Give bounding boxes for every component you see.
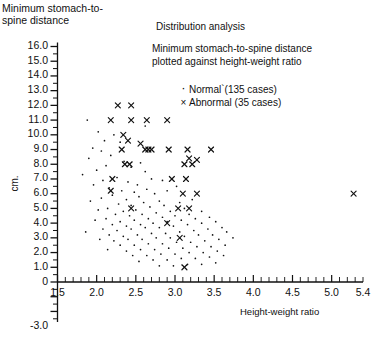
y-tick-label: 7.0 bbox=[8, 171, 48, 183]
y-tick-label: 3.0 bbox=[8, 230, 48, 242]
x-tick-label: 2.0 bbox=[80, 286, 114, 298]
y-tick-label: 4.0 bbox=[8, 216, 48, 228]
y-tick-label: 11.0 bbox=[8, 113, 48, 125]
y-tick-label: 9.0 bbox=[8, 142, 48, 154]
y-tick-label: 5.0 bbox=[8, 201, 48, 213]
x-tick-label: 3.5 bbox=[197, 286, 231, 298]
x-tick-label: 1.5 bbox=[41, 286, 75, 298]
y-tick-label: 16.0 bbox=[8, 39, 48, 51]
y-tick-label: 8.0 bbox=[8, 157, 48, 169]
x-tick-label: 2.5 bbox=[119, 286, 153, 298]
y-tick-label: 14.0 bbox=[8, 68, 48, 80]
y-tick-label: 1.0 bbox=[8, 260, 48, 272]
x-tick-label: 3.0 bbox=[158, 286, 192, 298]
y-tick-label: 12.0 bbox=[8, 98, 48, 110]
y-tick-label: 15.0 bbox=[8, 54, 48, 66]
y-tick-label: 13.0 bbox=[8, 83, 48, 95]
y-tick-label: 10.0 bbox=[8, 127, 48, 139]
y-tick-label: -3.0 bbox=[8, 319, 48, 331]
scatter-plot-figure: Minimum stomach-to-spine distance cm. Di… bbox=[0, 0, 373, 341]
y-tick-label: 6.0 bbox=[8, 186, 48, 198]
x-tick-label: 5.4 bbox=[346, 286, 373, 298]
y-tick-label: 0 bbox=[8, 275, 48, 287]
x-tick-label: 4.5 bbox=[276, 286, 310, 298]
x-tick-label: 5.0 bbox=[315, 286, 349, 298]
x-tick-label: 4.0 bbox=[236, 286, 270, 298]
y-tick-label: 2.0 bbox=[8, 245, 48, 257]
